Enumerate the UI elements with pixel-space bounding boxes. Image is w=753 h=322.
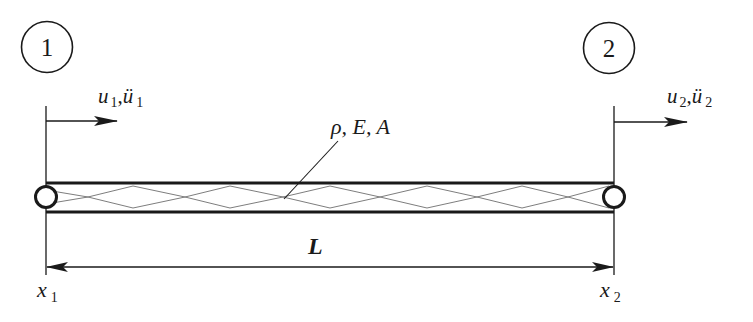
node-2-dof-label: u2,ü2: [667, 84, 712, 110]
node-1-pin: [36, 187, 57, 208]
length-label: L: [307, 233, 323, 259]
bar-hatching: [46, 186, 609, 208]
node-1-coordinate-label: x1: [36, 277, 58, 305]
node-2-pin: [604, 187, 625, 208]
node-1-label: 1: [22, 22, 73, 73]
node-2-number: 2: [603, 35, 616, 62]
node-1-number: 1: [41, 34, 54, 61]
node-2-label: 2: [584, 23, 635, 74]
node-2-coordinate-label: x2: [599, 277, 621, 305]
element-properties-label: ρ, E, A: [330, 114, 391, 139]
node-1-dof-label: u1,ü1: [98, 84, 143, 110]
bar-element-diagram: 1 2 u1,ü1 u2,ü2 ρ, E, A L x1 x2: [0, 0, 753, 322]
bar-element: [46, 183, 614, 212]
